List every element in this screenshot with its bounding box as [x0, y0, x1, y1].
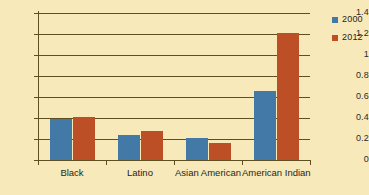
bar-group — [242, 13, 310, 160]
bar-2000-latino — [118, 135, 140, 160]
bar-2012-latino — [141, 131, 163, 160]
x-axis-label: American Indian — [242, 168, 310, 178]
legend: 20002012 — [332, 15, 363, 51]
y-tick-label: 0.4 — [339, 113, 369, 122]
y-tick-label: 0.2 — [339, 134, 369, 143]
bar-2000-american-indian — [254, 91, 276, 160]
legend-label: 2000 — [342, 15, 363, 24]
y-tick-label: 1 — [339, 50, 369, 59]
x-tick-mark — [174, 160, 175, 165]
x-axis-label: Asian American — [174, 168, 242, 178]
legend-item-2000[interactable]: 2000 — [332, 15, 363, 24]
y-tick-label: 0 — [339, 155, 369, 164]
legend-label: 2012 — [342, 33, 363, 42]
x-tick-mark — [310, 160, 311, 165]
x-tick-mark — [106, 160, 107, 165]
x-tick-mark — [38, 160, 39, 165]
legend-item-2012[interactable]: 2012 — [332, 33, 363, 42]
x-axis-label: Black — [38, 168, 106, 178]
bar-2012-black — [73, 117, 95, 160]
legend-swatch-icon — [332, 35, 338, 41]
legend-swatch-icon — [332, 17, 338, 23]
y-tick-label: 0.8 — [339, 71, 369, 80]
bar-group — [174, 13, 242, 160]
bar-2000-asian-american — [186, 138, 208, 160]
bar-2012-american-indian — [277, 33, 299, 160]
bar-group — [106, 13, 174, 160]
bar-chart: 00.20.40.60.811.21.4 BlackLatinoAsian Am… — [0, 0, 369, 195]
x-axis-label: Latino — [106, 168, 174, 178]
bar-2000-black — [50, 119, 72, 160]
bar-2012-asian-american — [209, 143, 231, 160]
plot-area — [38, 13, 310, 160]
x-tick-mark — [242, 160, 243, 165]
y-tick-label: 0.6 — [339, 92, 369, 101]
bar-group — [38, 13, 106, 160]
